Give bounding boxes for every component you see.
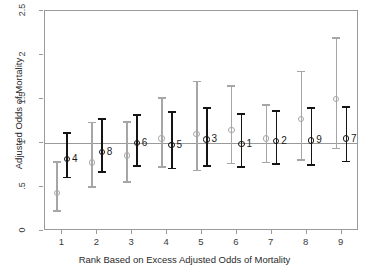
- x-tick-label: 8: [296, 237, 316, 247]
- data-point-label: 7: [351, 134, 357, 144]
- data-point-marker: [54, 190, 60, 196]
- x-tick-mark: [341, 230, 342, 234]
- data-point-marker: [333, 96, 339, 102]
- data-point-label: 8: [107, 147, 113, 157]
- data-point-marker: [203, 136, 209, 142]
- error-bar-stem: [336, 37, 338, 149]
- error-bar-cap-upper: [123, 121, 131, 123]
- y-tick-mark: [39, 54, 43, 55]
- x-axis-label: Rank Based on Excess Adjusted Odds of Mo…: [0, 254, 369, 265]
- x-tick-label: 4: [156, 237, 176, 247]
- error-bar-cap-lower: [307, 164, 315, 166]
- error-bar-stem: [231, 85, 233, 164]
- error-bar-cap-upper: [297, 71, 305, 73]
- error-bar-cap-upper: [227, 85, 235, 87]
- data-point-label: 4: [72, 154, 78, 164]
- x-tick-label: 2: [86, 237, 106, 247]
- error-bar-cap-upper: [133, 114, 141, 116]
- data-point-marker: [64, 156, 70, 162]
- x-tick-label: 6: [226, 237, 246, 247]
- error-bar-cap-upper: [237, 113, 245, 115]
- error-bar-stem: [91, 122, 93, 188]
- data-point-label: 9: [316, 135, 322, 145]
- error-bar-stem: [346, 106, 348, 162]
- error-bar-cap-upper: [272, 110, 280, 112]
- x-tick-label: 9: [331, 237, 351, 247]
- data-point-marker: [343, 135, 349, 141]
- error-bar-stem: [171, 111, 173, 169]
- x-tick-label: 1: [51, 237, 71, 247]
- y-tick-label: 1: [17, 129, 27, 155]
- x-tick-mark: [131, 230, 132, 234]
- x-tick-label: 7: [261, 237, 281, 247]
- x-tick-mark: [61, 230, 62, 234]
- error-bar-stem: [101, 118, 103, 173]
- y-tick-mark: [39, 10, 43, 11]
- x-tick-mark: [166, 230, 167, 234]
- error-bar-cap-upper: [168, 111, 176, 113]
- error-bar-cap-lower: [227, 163, 235, 165]
- data-point-marker: [298, 116, 304, 122]
- y-tick-mark: [39, 186, 43, 187]
- error-bar-cap-lower: [158, 166, 166, 168]
- data-point-label: 5: [177, 140, 183, 150]
- y-tick-label: 2: [17, 41, 27, 67]
- error-bar-cap-lower: [193, 170, 201, 172]
- data-point-marker: [158, 135, 164, 141]
- error-bar-cap-lower: [133, 165, 141, 167]
- data-point-marker: [308, 137, 314, 143]
- error-bar-cap-lower: [53, 210, 61, 212]
- error-bar-stem: [196, 81, 198, 172]
- data-point-marker: [134, 140, 140, 146]
- error-bar-cap-lower: [63, 177, 71, 179]
- data-point-marker: [124, 152, 130, 158]
- error-bar-cap-upper: [193, 81, 201, 83]
- error-bar-cap-lower: [297, 159, 305, 161]
- error-bar-cap-upper: [98, 118, 106, 120]
- y-tick-label: 1.5: [17, 85, 27, 111]
- data-point-label: 3: [212, 134, 218, 144]
- y-tick-label: 2.5: [17, 0, 27, 23]
- data-point-marker: [228, 127, 234, 133]
- error-bar-cap-upper: [262, 104, 270, 106]
- error-bar-cap-lower: [342, 161, 350, 163]
- error-bar-cap-upper: [158, 97, 166, 99]
- x-tick-label: 5: [191, 237, 211, 247]
- data-point-marker: [89, 159, 95, 165]
- error-bar-cap-lower: [237, 166, 245, 168]
- data-point-label: 6: [142, 138, 148, 148]
- data-point-label: 2: [281, 136, 287, 146]
- x-tick-mark: [201, 230, 202, 234]
- error-bar-cap-upper: [203, 107, 211, 109]
- error-bar-cap-lower: [168, 168, 176, 170]
- error-bar-cap-lower: [332, 148, 340, 150]
- error-bar-cap-lower: [262, 162, 270, 164]
- data-point-label: 1: [246, 139, 252, 149]
- x-tick-mark: [236, 230, 237, 234]
- chart-figure: Adjusted Odds of Mortality 0.511.522.5 4…: [0, 0, 369, 275]
- y-tick-mark: [39, 230, 43, 231]
- y-tick-label: .5: [17, 173, 27, 199]
- x-tick-label: 3: [121, 237, 141, 247]
- error-bar-cap-upper: [332, 37, 340, 39]
- error-bar-cap-lower: [98, 171, 106, 173]
- plot-area: 486531297: [44, 10, 358, 230]
- error-bar-cap-lower: [272, 163, 280, 165]
- error-bar-stem: [56, 161, 58, 211]
- x-tick-mark: [306, 230, 307, 234]
- error-bar-cap-upper: [53, 161, 61, 163]
- error-bar-cap-lower: [88, 186, 96, 188]
- y-tick-mark: [39, 142, 43, 143]
- error-bar-cap-upper: [307, 107, 315, 109]
- x-tick-mark: [271, 230, 272, 234]
- error-bar-cap-lower: [123, 181, 131, 183]
- data-point-marker: [99, 149, 105, 155]
- y-tick-mark: [39, 98, 43, 99]
- data-point-marker: [238, 141, 244, 147]
- error-bar-cap-upper: [63, 132, 71, 134]
- error-bar-stem: [266, 104, 268, 163]
- x-tick-mark: [96, 230, 97, 234]
- error-bar-cap-lower: [203, 165, 211, 167]
- data-point-marker: [263, 135, 269, 141]
- y-tick-label: 0: [17, 217, 27, 243]
